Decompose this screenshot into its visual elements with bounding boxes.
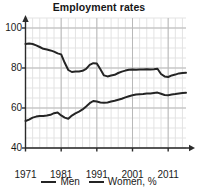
chart-title: Employment rates: [0, 1, 198, 13]
legend-item-women: Women, %: [89, 176, 157, 187]
y-tick-label: 60: [0, 102, 22, 113]
axes: [22, 15, 195, 152]
plot-svg: [0, 14, 198, 162]
minor-gridlines: [26, 18, 187, 148]
y-tick-label: 80: [0, 62, 22, 73]
legend-label-women: Women, %: [108, 176, 157, 187]
legend-item-men: Men: [41, 176, 79, 187]
series-lines: [26, 44, 187, 121]
legend-line-icon: [41, 181, 56, 183]
chart-legend: Men Women, %: [0, 176, 198, 187]
plot-area: 406080100 19711981199120012011: [0, 14, 198, 162]
employment-rates-chart: Employment rates 406080100 1971198119912…: [0, 0, 198, 195]
legend-label-men: Men: [60, 176, 79, 187]
y-tick-label: 40: [0, 142, 22, 153]
y-tick-label: 100: [0, 22, 22, 33]
legend-line-icon: [89, 181, 104, 183]
